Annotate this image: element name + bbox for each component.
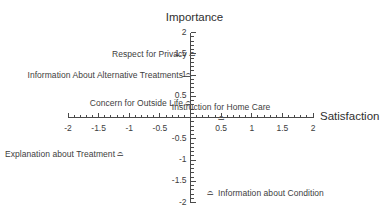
x-tick-label: -1.5 bbox=[91, 124, 106, 133]
x-tick-label: 1.5 bbox=[276, 124, 288, 133]
data-point-marker: ⌓ bbox=[117, 149, 123, 159]
y-axis-title: Importance bbox=[166, 11, 224, 24]
y-tick-label: -1 bbox=[179, 155, 187, 164]
x-tick-label: 0.5 bbox=[215, 124, 227, 133]
data-point-label: Information About Alternative Treatments bbox=[27, 70, 183, 80]
data-point-label: Instruction for Home Care bbox=[172, 102, 271, 112]
x-tick-label: -2 bbox=[64, 124, 72, 133]
data-point-label: Respect for Privacy bbox=[112, 49, 187, 59]
scatter-chart: Importance Satisfaction -2-1.5-1-0.50.51… bbox=[0, 0, 382, 218]
data-point-label: Information about Condition bbox=[218, 188, 324, 198]
data-point-marker: ⌓ bbox=[207, 188, 213, 198]
x-tick-label: -1 bbox=[125, 124, 133, 133]
y-tick-label: 2 bbox=[182, 28, 187, 37]
y-tick-label: -1.5 bbox=[172, 176, 187, 185]
y-tick-label: -2 bbox=[179, 198, 187, 207]
x-tick-label: 1 bbox=[249, 124, 254, 133]
data-point-marker: ⌓ bbox=[218, 113, 224, 123]
x-axis-title: Satisfaction bbox=[320, 110, 379, 123]
data-point-marker: ⌓ bbox=[189, 49, 195, 59]
x-tick-label: -0.5 bbox=[153, 124, 168, 133]
data-point-label: Concern for Outside Life bbox=[90, 98, 183, 108]
x-tick-label: 2 bbox=[311, 124, 316, 133]
data-point-marker: ⌓ bbox=[185, 70, 191, 80]
y-tick-label: -0.5 bbox=[172, 134, 187, 143]
data-point-label: Explanation about Treatment bbox=[5, 149, 115, 159]
